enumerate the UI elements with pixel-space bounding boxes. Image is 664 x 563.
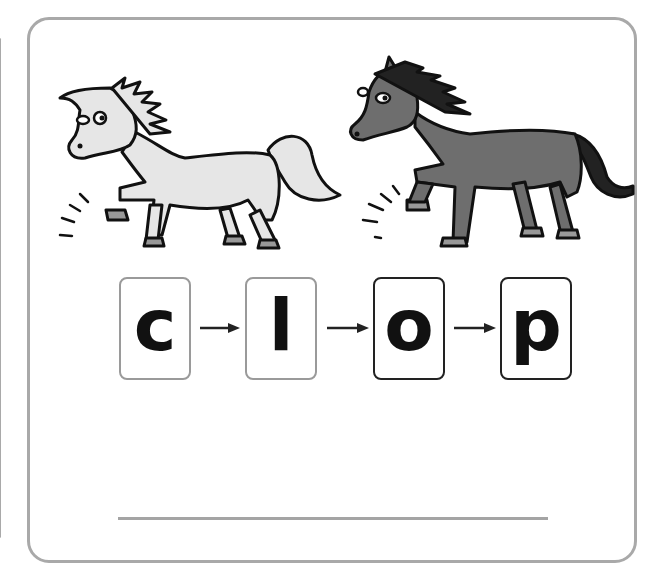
arrow-right-icon <box>327 323 369 333</box>
letter-box-c: c <box>119 277 191 380</box>
letter-p: p <box>510 289 562 361</box>
letter-o: o <box>384 289 433 361</box>
adjacent-card-edge <box>0 38 1 538</box>
letter-l: l <box>269 289 294 361</box>
letter-box-l: l <box>245 277 317 380</box>
arrow-right-icon <box>200 323 240 333</box>
letter-c: c <box>134 289 177 361</box>
letter-box-p: p <box>500 277 572 380</box>
answer-writing-line[interactable] <box>118 517 548 520</box>
arrow-right-icon <box>454 323 496 333</box>
dark-horse-illustration <box>345 52 635 252</box>
white-horse-illustration <box>50 70 350 260</box>
letter-box-o: o <box>373 277 445 380</box>
